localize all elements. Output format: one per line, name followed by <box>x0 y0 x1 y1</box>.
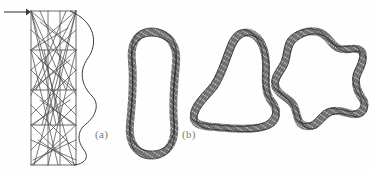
loop-oval <box>130 28 177 159</box>
loop-star <box>272 29 367 129</box>
panel-b-group <box>130 28 368 159</box>
panel-a-group <box>4 9 96 165</box>
incoming-arrow <box>4 9 31 16</box>
figure-illustration <box>0 0 372 172</box>
figure-container: (a) (b) <box>0 0 372 172</box>
panel-label-a: (a) <box>95 128 108 140</box>
mesh-chords <box>31 11 76 165</box>
panel-label-b: (b) <box>182 128 196 140</box>
loop-triangle <box>191 30 279 132</box>
